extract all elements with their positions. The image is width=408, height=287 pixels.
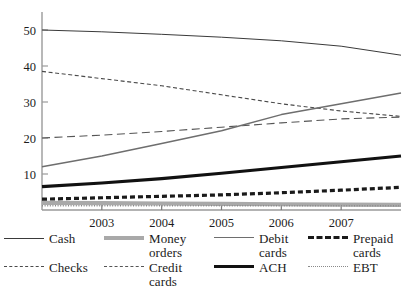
legend-swatch-prepaid-cards-icon <box>308 231 348 245</box>
y-tick-label: 40 <box>24 60 37 74</box>
legend-swatch-credit-cards-icon <box>104 260 144 274</box>
legend-swatch-ach-icon <box>214 260 254 274</box>
legend-label-ebt: EBT <box>353 260 378 275</box>
legend-swatch-cash-icon <box>4 231 44 245</box>
legend-item-ebt: EBT <box>308 260 408 287</box>
legend-item-ach: ACH <box>214 260 306 287</box>
line-chart: 1020304050 20032004200520062007 Cash Mon… <box>0 0 408 287</box>
legend-label-cash: Cash <box>49 231 75 246</box>
legend-swatch-checks-icon <box>4 260 44 274</box>
y-tick-label: 20 <box>24 132 37 146</box>
legend-item-checks: Checks <box>4 260 102 287</box>
legend-item-prepaid-cards: Prepaid cards <box>308 231 408 259</box>
legend-item-cash: Cash <box>4 231 102 259</box>
legend-item-credit-cards: Credit cards <box>104 260 212 287</box>
y-tick-label: 10 <box>24 168 37 182</box>
x-tick-label: 2005 <box>209 216 234 228</box>
legend-label-money-orders: Money orders <box>149 231 212 259</box>
x-tick-label: 2003 <box>89 216 114 228</box>
chart-legend: Cash Money orders Debit cards Prepaid ca… <box>0 231 408 287</box>
legend-item-money-orders: Money orders <box>104 231 212 259</box>
data-series-group <box>42 30 401 206</box>
legend-label-prepaid-cards: Prepaid cards <box>353 231 393 259</box>
plot-svg: 1020304050 20032004200520062007 <box>0 0 408 228</box>
legend-label-credit-cards: Credit cards <box>149 260 212 287</box>
legend-swatch-debit-cards-icon <box>214 231 254 245</box>
plot-area: 1020304050 20032004200520062007 <box>0 0 408 228</box>
x-tick-label: 2006 <box>269 216 294 228</box>
series-line-cash <box>42 30 401 55</box>
y-tick-label: 50 <box>24 24 37 38</box>
series-line-checks <box>42 71 401 116</box>
x-tick-labels: 20032004200520062007 <box>89 216 353 228</box>
x-tick-label: 2007 <box>329 216 354 228</box>
x-tick-label: 2004 <box>149 216 175 228</box>
series-line-ach <box>42 156 401 187</box>
series-line-credit-cards <box>42 117 401 138</box>
y-tick-label: 30 <box>24 96 37 110</box>
legend-row: Cash Money orders Debit cards Prepaid ca… <box>0 231 408 259</box>
series-line-prepaid-cards <box>42 187 401 199</box>
legend-label-debit-cards: Debit cards <box>259 231 288 259</box>
legend-swatch-ebt-icon <box>308 260 348 274</box>
y-tick-labels: 1020304050 <box>24 24 37 182</box>
series-line-money-orders <box>42 203 401 205</box>
legend-label-checks: Checks <box>49 260 88 275</box>
series-line-debit-cards <box>42 93 401 167</box>
legend-swatch-money-orders-icon <box>104 231 144 245</box>
legend-row: Checks Credit cards ACH EBT <box>0 260 408 287</box>
legend-label-ach: ACH <box>259 260 287 275</box>
legend-item-debit-cards: Debit cards <box>214 231 306 259</box>
y-tick-marks <box>42 30 48 174</box>
axis-group <box>42 12 401 210</box>
